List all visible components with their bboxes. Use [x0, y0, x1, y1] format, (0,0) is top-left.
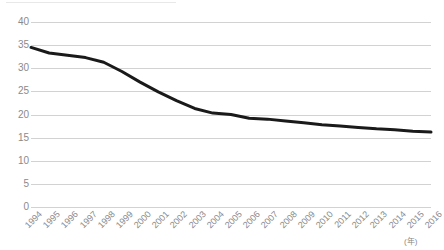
top-divider — [6, 2, 176, 3]
y-tick-label: 0 — [3, 202, 29, 212]
y-tick-label: 15 — [3, 133, 29, 143]
x-axis-labels: 1994199519961997199819992000200120022003… — [31, 209, 431, 250]
series-line — [31, 22, 431, 207]
y-tick-label: 25 — [3, 86, 29, 96]
y-axis-labels: 4035302520151050 — [0, 22, 29, 207]
y-tick-label: 10 — [3, 156, 29, 166]
y-tick-label: 5 — [3, 179, 29, 189]
x-axis-unit-label: (年) — [404, 235, 417, 246]
y-tick-label: 20 — [3, 110, 29, 120]
y-tick-label: 40 — [3, 17, 29, 27]
y-tick-label: 35 — [3, 40, 29, 50]
gridline — [31, 207, 431, 208]
y-tick-label: 30 — [3, 63, 29, 73]
plot-area — [31, 22, 431, 207]
